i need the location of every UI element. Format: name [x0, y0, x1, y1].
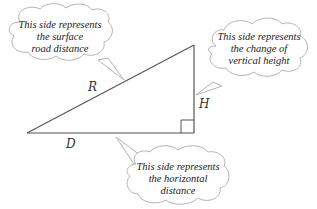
callout-line-3: distance [161, 185, 196, 196]
right-angle-marker [181, 120, 194, 133]
callout-pointer [196, 82, 222, 95]
callout-line-1: This side represents [217, 31, 300, 42]
callout-line-2: the change of [231, 43, 290, 54]
callout-horizontal-distance: This side represents the horizontal dist… [116, 137, 229, 204]
callout-vertical-height: This side represents the change of verti… [196, 18, 308, 95]
callout-pointer [98, 58, 124, 80]
right-triangle-diagram: R H D This side represents the surface r… [0, 0, 317, 209]
callout-line-1: This side represents [136, 161, 219, 172]
label-D: D [65, 137, 76, 151]
label-H: H [198, 97, 210, 111]
callout-line-2: the horizontal [149, 173, 208, 184]
callout-line-1: This side represents [18, 19, 101, 30]
callout-line-2: the surface [37, 31, 84, 42]
callout-surface-road: This side represents the surface road di… [9, 4, 124, 80]
label-R: R [87, 80, 97, 94]
callout-line-3: vertical height [229, 55, 291, 66]
callout-line-3: road distance [31, 43, 88, 54]
